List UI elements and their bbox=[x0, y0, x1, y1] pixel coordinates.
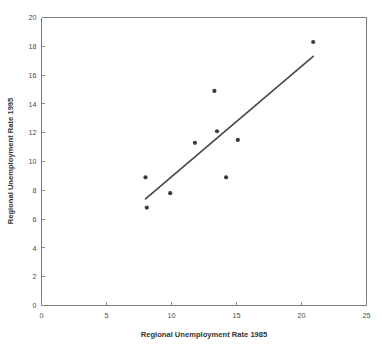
y-tick-label: 16 bbox=[29, 71, 37, 80]
plot-frame bbox=[42, 18, 367, 306]
scatter-plot-svg: 051015202502468101214161820 Regional Une… bbox=[0, 0, 382, 349]
y-tick-label: 8 bbox=[33, 186, 37, 195]
regression-line bbox=[146, 56, 314, 199]
data-point bbox=[215, 129, 219, 133]
x-tick-label: 5 bbox=[105, 311, 109, 320]
x-tick-label: 10 bbox=[168, 311, 176, 320]
data-point bbox=[224, 175, 228, 179]
y-tick-label: 6 bbox=[33, 215, 37, 224]
y-tick-label: 14 bbox=[29, 100, 37, 109]
scatter-chart-figure: 051015202502468101214161820 Regional Une… bbox=[0, 0, 382, 349]
x-tick-label: 15 bbox=[233, 311, 241, 320]
data-point bbox=[168, 191, 172, 195]
y-tick-label: 0 bbox=[33, 301, 37, 310]
axes-group bbox=[42, 18, 367, 306]
tick-labels-group: 051015202502468101214161820 bbox=[29, 13, 371, 319]
trend-line-group bbox=[146, 56, 314, 199]
data-points-group bbox=[143, 40, 315, 210]
y-tick-label: 20 bbox=[29, 13, 37, 22]
y-tick-label: 12 bbox=[29, 128, 37, 137]
y-tick-label: 4 bbox=[33, 244, 37, 253]
y-axis-title: Regional Unemployment Rate 1995 bbox=[6, 97, 15, 224]
data-point bbox=[212, 89, 216, 93]
y-tick-label: 18 bbox=[29, 42, 37, 51]
data-point bbox=[311, 40, 315, 44]
x-tick-label: 25 bbox=[363, 311, 371, 320]
x-tick-label: 0 bbox=[40, 311, 44, 320]
x-tick-label: 20 bbox=[298, 311, 306, 320]
x-axis-title: Regional Unemployment Rate 1985 bbox=[141, 330, 268, 339]
ticks-group bbox=[42, 18, 367, 306]
y-tick-label: 2 bbox=[33, 272, 37, 281]
data-point bbox=[236, 138, 240, 142]
data-point bbox=[145, 205, 149, 209]
data-point bbox=[193, 141, 197, 145]
data-point bbox=[143, 175, 147, 179]
y-tick-label: 10 bbox=[29, 157, 37, 166]
